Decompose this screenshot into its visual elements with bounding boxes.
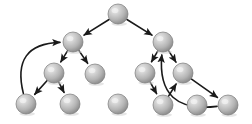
node-circle[interactable] [85, 64, 105, 84]
node-highlight [139, 67, 146, 72]
node-circle[interactable] [153, 32, 173, 52]
node-highlight [177, 67, 184, 72]
graph-edge [61, 51, 68, 62]
node-highlight [112, 98, 119, 103]
graph-node[interactable] [16, 94, 36, 116]
node-highlight [222, 99, 229, 104]
graph-node[interactable] [108, 94, 128, 116]
graph-edge [152, 51, 158, 62]
node-highlight [64, 98, 71, 103]
node-highlight [89, 68, 96, 73]
node-circle[interactable] [173, 63, 193, 83]
node-circle[interactable] [44, 63, 64, 83]
nodes-layer [16, 4, 238, 117]
graph-node[interactable] [153, 32, 173, 54]
graph-node[interactable] [60, 94, 80, 116]
node-circle[interactable] [218, 95, 238, 115]
graph-node[interactable] [153, 95, 173, 117]
graph-node[interactable] [187, 95, 207, 117]
node-highlight [191, 99, 198, 104]
graph-node[interactable] [63, 32, 83, 54]
node-highlight [112, 8, 119, 13]
graph-node[interactable] [135, 63, 155, 85]
graph-node[interactable] [218, 95, 238, 117]
graph-edge [84, 20, 109, 36]
node-highlight [67, 36, 74, 41]
node-circle[interactable] [135, 63, 155, 83]
graph-canvas [0, 0, 252, 124]
figure-root: Directed graph traversal tree with back … [0, 0, 252, 124]
graph-edge [192, 79, 218, 97]
node-highlight [20, 98, 27, 103]
node-circle[interactable] [60, 94, 80, 114]
node-circle[interactable] [63, 32, 83, 52]
node-circle[interactable] [108, 4, 128, 24]
node-highlight [157, 99, 164, 104]
node-circle[interactable] [153, 95, 173, 115]
graph-edge [127, 20, 152, 36]
node-highlight [157, 36, 164, 41]
node-circle[interactable] [108, 94, 128, 114]
node-circle[interactable] [16, 94, 36, 114]
graph-node[interactable] [85, 64, 105, 86]
graph-node[interactable] [108, 4, 128, 26]
node-highlight [48, 67, 55, 72]
node-circle[interactable] [187, 95, 207, 115]
graph-edge [35, 81, 47, 95]
graph-node[interactable] [173, 63, 193, 85]
